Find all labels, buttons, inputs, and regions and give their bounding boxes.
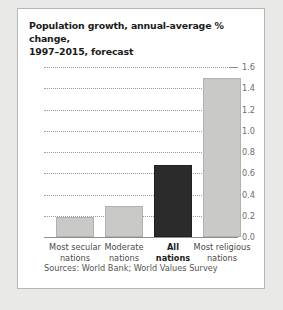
source-note: Sources: World Bank; World Values Survey	[44, 263, 218, 273]
gridline-1.6	[44, 67, 230, 68]
bar-all-nations[interactable]	[154, 165, 192, 237]
y-axis-label-0.8: 0.8	[242, 147, 255, 157]
bar-most-religious-nations[interactable]	[203, 78, 241, 237]
chart-title-line-2: 1997–2015, forecast	[29, 45, 254, 58]
x-axis-label-most-religious-nations: Most religious nations	[191, 242, 253, 263]
chart-card: Population growth, annual-average % chan…	[17, 8, 265, 289]
axis-baseline	[44, 237, 230, 238]
y-axis-label-1.4: 1.4	[242, 83, 255, 93]
y-axis-label-0.0: 0.0	[242, 232, 255, 242]
y-axis-label-0.4: 0.4	[242, 190, 255, 200]
chart-title-line-1: Population growth, annual-average % chan…	[29, 19, 254, 45]
bar-moderate-nations[interactable]	[105, 206, 143, 237]
x-axis-label-line-1: Most religious	[191, 242, 253, 253]
bar-most-secular-nations[interactable]	[56, 217, 94, 237]
y-axis-label-1.0: 1.0	[242, 126, 255, 136]
plot-area: 1.6 1.4 1.2 1.0 0.8 0.6 0.4 0.2 0.0 M	[44, 67, 230, 237]
y-axis-label-1.2: 1.2	[242, 105, 255, 115]
chart-title: Population growth, annual-average % chan…	[29, 19, 254, 58]
y-axis-label-0.2: 0.2	[242, 211, 255, 221]
y-axis-label-1.6: 1.6	[242, 62, 255, 72]
tick-0.0	[230, 237, 238, 238]
x-axis-label-line-2: nations	[191, 253, 253, 264]
tick-1.6	[230, 67, 238, 68]
y-axis-label-0.6: 0.6	[242, 168, 255, 178]
